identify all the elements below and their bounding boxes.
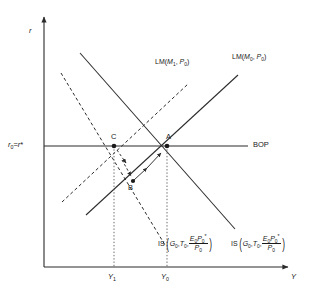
- is-lm-bp-figure: r Y r0=r* Y1 Y0 BOP LM(M1, P0) LM(M0, P0…: [0, 0, 311, 295]
- is-dashed-num-e-sub: 0: [194, 239, 197, 244]
- lm-m1-prefix: LM: [155, 58, 165, 65]
- arrow-b-to-a-1: [134, 168, 147, 180]
- is-dashed-curve-label: IS(G0,T0,E0P0*P0): [158, 236, 213, 253]
- r0-sub: 0: [11, 144, 14, 150]
- lm-m0-curve-label: LM(M0, P0): [232, 53, 266, 61]
- lm-m1-arg2-sub: 0: [184, 62, 187, 67]
- y-axis-label: r: [29, 27, 32, 35]
- is-solid-num-e-sub: 0: [267, 239, 270, 244]
- is-solid-den-p-sub: 0: [272, 248, 275, 253]
- lm-m0-arg1-sub: 0: [250, 57, 253, 62]
- arrow-c-to-b-2: [122, 160, 131, 176]
- point-markers-group: [112, 144, 170, 183]
- is-dashed-curve: [61, 73, 165, 245]
- arrow-b-to-a-2: [147, 153, 161, 168]
- is-solid-curve-label: IS(G0,T0,E0P0*P0): [231, 236, 286, 253]
- lm-m1-arg1-sub: 1: [173, 62, 176, 67]
- lm-m1-curve: [62, 84, 188, 202]
- is-solid-prefix: IS: [231, 240, 238, 247]
- lm-m0-prefix: LM: [232, 53, 242, 60]
- is-solid-curve: [80, 53, 235, 229]
- y1-sub: 1: [113, 276, 116, 282]
- point-label-A: A: [166, 133, 171, 141]
- y0-sub: 0: [166, 276, 169, 282]
- rstar-asterisk: *: [20, 140, 23, 149]
- is-dashed-prefix: IS: [158, 240, 165, 247]
- is-dashed-arg1-sub: 0: [175, 244, 178, 249]
- is-dashed-num-p-sub: 0: [202, 239, 205, 244]
- x-axis-label: Y: [291, 273, 296, 281]
- arrow-c-to-b-1: [117, 150, 126, 163]
- is-solid-arg2-sub: 0: [257, 244, 260, 249]
- y-tick-label-r0: r0=r*: [8, 141, 23, 149]
- bop-curve-label: BOP: [253, 141, 269, 149]
- x-tick-label-y1: Y1: [108, 273, 116, 281]
- point-marker-A: [165, 144, 170, 149]
- point-label-C: C: [111, 133, 116, 141]
- adjustment-arrows-group: [117, 150, 161, 180]
- point-marker-C: [112, 144, 117, 149]
- is-dashed-num-star: *: [205, 233, 207, 239]
- lm-m0-arg2-sub: 0: [261, 57, 264, 62]
- is-solid-fraction: E0P0*P0: [262, 235, 281, 252]
- lm-m1-curve-label: LM(M1, P0): [155, 58, 189, 66]
- is-solid-num-star: *: [278, 233, 280, 239]
- is-dashed-fraction: E0P0*P0: [189, 235, 208, 252]
- is-solid-arg1-sub: 0: [248, 244, 251, 249]
- lm-m0-curve: [86, 75, 238, 215]
- is-solid-num-p-sub: 0: [275, 239, 278, 244]
- point-label-B: B: [128, 184, 133, 192]
- x-tick-label-y0: Y0: [161, 273, 169, 281]
- is-dashed-den-p-sub: 0: [199, 248, 202, 253]
- is-dashed-arg2-sub: 0: [184, 244, 187, 249]
